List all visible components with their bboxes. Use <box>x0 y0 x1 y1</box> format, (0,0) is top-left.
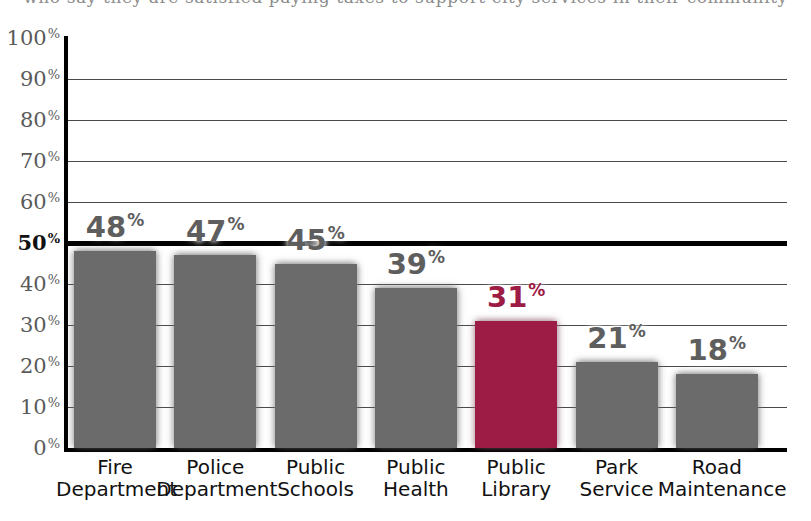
value-label-public-library: 31% <box>466 282 566 312</box>
y-tick-label-70: 70% <box>0 150 60 172</box>
category-label-line: Road <box>692 455 742 479</box>
gridline-0 <box>68 448 787 452</box>
category-label-line: Public <box>286 455 345 479</box>
y-tick-label-10: 10% <box>0 396 60 418</box>
category-label-line: Police <box>186 455 244 479</box>
bar-public-schools[interactable] <box>275 264 357 449</box>
value-label-road-maintenance: 18% <box>667 335 767 365</box>
bar-park-service[interactable] <box>576 362 658 448</box>
y-tick-label-90: 90% <box>0 68 60 90</box>
category-label-line: Park <box>595 455 638 479</box>
y-tick-label-0: 0% <box>0 437 60 459</box>
y-tick-label-50: 50% <box>0 232 60 253</box>
y-tick-label-80: 80% <box>0 109 60 131</box>
gridline-60 <box>68 202 787 203</box>
category-label-line: Public <box>487 455 546 479</box>
gridline-100 <box>68 38 787 39</box>
bar-police-department[interactable] <box>174 255 256 448</box>
category-label-road-maintenance: RoadMaintenance <box>658 456 776 501</box>
gridline-90 <box>68 79 787 80</box>
gridline-70 <box>68 161 787 162</box>
bar-public-library[interactable] <box>475 321 557 448</box>
category-label-line: Fire <box>97 455 133 479</box>
value-label-park-service: 21% <box>567 323 667 353</box>
value-label-fire-department: 48% <box>65 212 165 242</box>
value-label-police-department: 47% <box>165 216 265 246</box>
gridline-80 <box>68 120 787 121</box>
y-tick-label-40: 40% <box>0 273 60 295</box>
category-label-line: Public <box>386 455 445 479</box>
bar-chart: 100%90%80%70%60%50%40%30%20%10%0% 48%47%… <box>0 0 811 521</box>
y-tick-label-30: 30% <box>0 314 60 336</box>
y-tick-label-20: 20% <box>0 355 60 377</box>
value-label-public-health: 39% <box>366 249 466 279</box>
y-tick-label-60: 60% <box>0 191 60 213</box>
bar-public-health[interactable] <box>375 288 457 448</box>
category-label-line: Maintenance <box>658 478 776 500</box>
plot-area: 48%47%45%39%31%21%18% <box>68 38 787 448</box>
bar-fire-department[interactable] <box>74 251 156 448</box>
y-tick-label-100: 100% <box>0 27 60 49</box>
bar-road-maintenance[interactable] <box>676 374 758 448</box>
value-label-public-schools: 45% <box>266 225 366 255</box>
